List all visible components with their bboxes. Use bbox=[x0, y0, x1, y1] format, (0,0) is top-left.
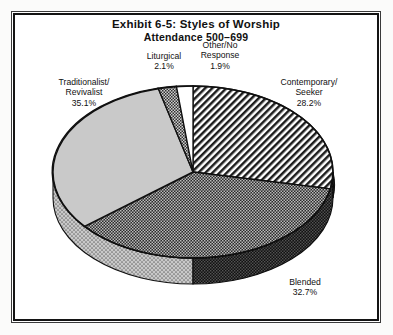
page-canvas: Exhibit 6-5: Styles of Worship Attendanc… bbox=[0, 0, 393, 335]
slice-label-other-no-response: Other/No Response 1.9% bbox=[187, 40, 253, 71]
slice-value-other-no-response: 1.9% bbox=[187, 61, 253, 71]
slice-value-traditionalist: 35.1% bbox=[32, 98, 136, 108]
slice-label-blended: Blended 32.7% bbox=[263, 277, 347, 298]
slice-label-contemporary-line2: Seeker bbox=[295, 87, 322, 97]
slice-label-other-line1: Other/No bbox=[203, 40, 238, 50]
slice-label-traditionalist-line2: Revivalist bbox=[66, 87, 103, 97]
slice-label-contemporary: Contemporary/ Seeker 28.2% bbox=[255, 77, 363, 108]
slice-value-blended: 32.7% bbox=[263, 287, 347, 297]
slice-label-other-line2: Response bbox=[201, 50, 240, 60]
slice-label-traditionalist: Traditionalist/ Revivalist 35.1% bbox=[32, 77, 136, 108]
slice-label-traditionalist-line1: Traditionalist/ bbox=[59, 77, 110, 87]
slice-label-blended-line1: Blended bbox=[289, 277, 321, 287]
slice-label-contemporary-line1: Contemporary/ bbox=[281, 77, 338, 87]
slice-value-contemporary: 28.2% bbox=[255, 98, 363, 108]
slice-label-liturgical-line1: Liturgical bbox=[147, 51, 181, 61]
chart-area: Exhibit 6-5: Styles of Worship Attendanc… bbox=[15, 15, 377, 319]
